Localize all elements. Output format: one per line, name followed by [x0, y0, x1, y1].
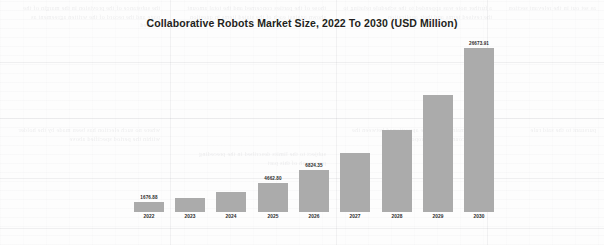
bar-2024[interactable]	[216, 40, 246, 212]
bar-rect[interactable]	[175, 198, 205, 212]
bar-value-label: 26673.91	[469, 41, 489, 46]
bar-rect[interactable]	[258, 183, 288, 212]
x-tick-2027: 2027	[340, 214, 370, 219]
bar-2030[interactable]: 26673.91	[464, 40, 494, 212]
bar-value-label: 1676.88	[140, 195, 157, 200]
x-tick-2029: 2029	[423, 214, 453, 219]
plot-area: 1676.884662.806824.3526673.91	[128, 40, 500, 212]
x-tick-2023: 2023	[175, 214, 205, 219]
bar-rect[interactable]	[464, 48, 494, 212]
bar-rect[interactable]	[299, 170, 329, 212]
bar-value-label: 6824.35	[305, 163, 322, 168]
bar-rect[interactable]	[216, 192, 246, 212]
x-tick-2030: 2030	[464, 214, 494, 219]
bar-2028[interactable]	[382, 40, 412, 212]
bar-rect[interactable]	[340, 153, 370, 212]
bar-chart: Collaborative Robots Market Size, 2022 T…	[0, 0, 604, 245]
bar-rect[interactable]	[423, 95, 453, 212]
x-tick-2022: 2022	[134, 214, 164, 219]
bar-rect[interactable]	[382, 130, 412, 212]
x-tick-2024: 2024	[216, 214, 246, 219]
x-tick-2025: 2025	[258, 214, 288, 219]
x-axis: 202220232024202520262027202820292030	[128, 214, 500, 228]
bar-2025[interactable]: 4662.80	[258, 40, 288, 212]
x-tick-2028: 2028	[382, 214, 412, 219]
bar-rect[interactable]	[134, 202, 164, 212]
bar-value-label: 4662.80	[264, 176, 281, 181]
bar-2023[interactable]	[175, 40, 205, 212]
bar-2026[interactable]: 6824.35	[299, 40, 329, 212]
bar-2029[interactable]	[423, 40, 453, 212]
bar-2022[interactable]: 1676.88	[134, 40, 164, 212]
chart-title: Collaborative Robots Market Size, 2022 T…	[0, 17, 604, 29]
bar-2027[interactable]	[340, 40, 370, 212]
x-tick-2026: 2026	[299, 214, 329, 219]
